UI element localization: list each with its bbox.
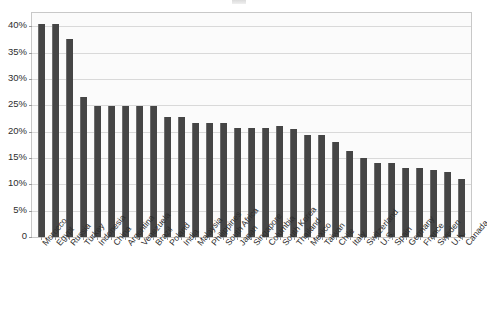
bar <box>346 151 353 237</box>
x-label-slot: Singapore <box>244 240 258 318</box>
bar-slot <box>301 13 315 237</box>
x-label-slot: Canada <box>456 240 470 318</box>
x-label-slot: Chile <box>329 240 343 318</box>
bar-slot <box>287 13 301 237</box>
x-label-slot: Argentina <box>118 240 132 318</box>
bar-chart: 40%35%30%25%20%15%10%5%0 MoroccoEgyptRus… <box>0 0 487 318</box>
bar-slot <box>385 13 399 237</box>
bar <box>52 24 59 237</box>
bar <box>108 106 115 237</box>
x-label-slot: Japan <box>230 240 244 318</box>
bar-slot <box>329 13 343 237</box>
bar-slot <box>244 13 258 237</box>
bar-slot <box>48 13 62 237</box>
bar <box>360 158 367 237</box>
x-label-slot: Switzerland <box>357 240 371 318</box>
bar-slot <box>273 13 287 237</box>
x-label-slot: U.S. <box>371 240 385 318</box>
x-label-slot: Taiwan <box>315 240 329 318</box>
bar-slot <box>90 13 104 237</box>
bar-slot <box>160 13 174 237</box>
x-label-slot: Italy <box>343 240 357 318</box>
bar-slot <box>62 13 76 237</box>
x-label-slot: Germany <box>399 240 413 318</box>
y-axis-tick-label: 0 <box>0 230 27 241</box>
bar-slot <box>441 13 455 237</box>
bar <box>80 97 87 237</box>
bar-slot <box>427 13 441 237</box>
x-label-slot: Spain <box>385 240 399 318</box>
bar-slot <box>34 13 48 237</box>
y-axis-tick-label: 15% <box>0 151 27 162</box>
x-label-slot: Philippines <box>202 240 216 318</box>
bar-slot <box>371 13 385 237</box>
x-label-slot: Turkey <box>75 240 89 318</box>
x-label-slot: Mexico <box>301 240 315 318</box>
bar <box>136 106 143 237</box>
bar-series <box>32 13 471 237</box>
bar-slot <box>259 13 273 237</box>
bar <box>192 123 199 237</box>
bar-slot <box>146 13 160 237</box>
x-label-slot: India <box>174 240 188 318</box>
bar-slot <box>216 13 230 237</box>
bar-slot <box>399 13 413 237</box>
bar-slot <box>76 13 90 237</box>
y-axis-tick-label: 35% <box>0 46 27 57</box>
x-axis-category-label: Canada <box>463 241 471 247</box>
bar-slot <box>188 13 202 237</box>
bar-slot <box>104 13 118 237</box>
x-axis-labels: MoroccoEgyptRussiaTurkeyIndonesiaChinaAr… <box>31 240 472 318</box>
x-label-slot: South Korea <box>273 240 287 318</box>
bar <box>38 24 45 237</box>
y-axis-tick-label: 5% <box>0 204 27 215</box>
bar-slot <box>413 13 427 237</box>
y-axis-tick-label: 30% <box>0 72 27 83</box>
bar-slot <box>343 13 357 237</box>
x-label-slot: Indonesia <box>89 240 103 318</box>
bar-slot <box>202 13 216 237</box>
x-label-slot: Brazil <box>146 240 160 318</box>
bar-slot <box>455 13 469 237</box>
cropped-title-remnant <box>232 0 246 4</box>
bar-slot <box>118 13 132 237</box>
x-label-slot: Malaysia <box>188 240 202 318</box>
y-axis-tick-label: 10% <box>0 177 27 188</box>
x-label-slot: China <box>103 240 117 318</box>
x-label-slot: Thailand <box>287 240 301 318</box>
y-axis-tick-label: 20% <box>0 125 27 136</box>
x-label-slot: Morocco <box>33 240 47 318</box>
bar-slot <box>132 13 146 237</box>
y-axis-tick <box>29 237 32 238</box>
x-label-slot: Egypt <box>47 240 61 318</box>
bar <box>94 106 101 237</box>
x-label-slot: Russia <box>61 240 75 318</box>
y-axis-tick-label: 25% <box>0 98 27 109</box>
bar-slot <box>230 13 244 237</box>
x-label-slot: Columbia <box>259 240 273 318</box>
x-label-slot: Venezuela <box>132 240 146 318</box>
plot-area <box>31 12 472 238</box>
x-label-slot: Poland <box>160 240 174 318</box>
bar-slot <box>174 13 188 237</box>
x-label-slot: U.K. <box>442 240 456 318</box>
x-label-slot: France <box>414 240 428 318</box>
x-label-slot: Sweden <box>428 240 442 318</box>
y-axis-tick-label: 40% <box>0 19 27 30</box>
bar-slot <box>357 13 371 237</box>
bar <box>66 39 73 237</box>
x-label-slot: South Africa <box>216 240 230 318</box>
plot-inner <box>32 13 471 237</box>
bar-slot <box>315 13 329 237</box>
